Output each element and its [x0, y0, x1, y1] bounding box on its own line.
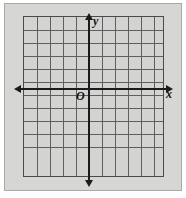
grid-vertical-line — [50, 17, 51, 176]
grid-horizontal-line — [24, 147, 163, 148]
grid-horizontal-line — [24, 69, 163, 70]
grid-vertical-line — [128, 17, 129, 176]
grid-vertical-line — [37, 17, 38, 176]
grid-horizontal-line — [24, 134, 163, 135]
y-axis-down-arrow-icon — [85, 180, 93, 187]
y-axis-label: y — [93, 15, 98, 27]
grid-vertical-line — [102, 17, 103, 176]
grid-lines — [24, 17, 163, 176]
x-axis-label: x — [166, 88, 172, 100]
grid-plate — [23, 16, 164, 177]
grid-vertical-line — [63, 17, 64, 176]
grid-vertical-line — [115, 17, 116, 176]
grid-horizontal-line — [24, 95, 163, 96]
grid-vertical-line — [141, 17, 142, 176]
origin-label: O — [76, 90, 85, 102]
grid-horizontal-line — [24, 43, 163, 44]
grid-horizontal-line — [24, 121, 163, 122]
grid-horizontal-line — [24, 30, 163, 31]
coordinate-plane-figure: y x O — [0, 0, 186, 198]
x-axis-left-arrow-icon — [14, 85, 21, 93]
grid-horizontal-line — [24, 56, 163, 57]
x-axis-line — [21, 88, 166, 90]
grid-horizontal-line — [24, 82, 163, 83]
grid-vertical-line — [154, 17, 155, 176]
grid-horizontal-line — [24, 108, 163, 109]
y-axis-up-arrow-icon — [85, 13, 93, 20]
y-axis-line — [88, 20, 90, 180]
